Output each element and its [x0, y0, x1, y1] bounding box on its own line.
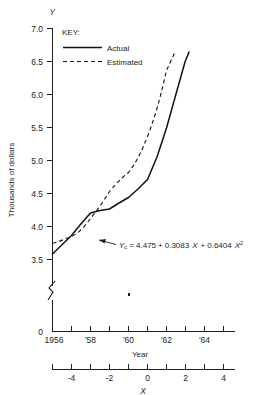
legend-item-actual: Actual: [63, 44, 129, 53]
equation-plus-2: +: [201, 241, 206, 250]
equation-annotation: Yc=4.475+0.3083X+0.6404X2: [99, 239, 243, 250]
y-tick-label-6.0: 6.0: [31, 90, 43, 100]
year-axis: 1956 '58 '60 '62 '64 Year: [45, 326, 235, 360]
y-tick-label-4.5: 4.5: [31, 189, 43, 199]
y-axis-symbol: Y: [49, 7, 56, 17]
year-tick-label-60: '60: [123, 335, 134, 345]
print-speck: [128, 293, 130, 296]
legend-label-estimated: Estimated: [107, 58, 143, 67]
legend-item-estimated: Estimated: [63, 58, 143, 67]
y-tick-label-7.0: 7.0: [31, 24, 43, 34]
y-axis: 7.0 6.5 6.0 5.5 5.0 4.5 4.0 3.5 0 Y Thou…: [7, 7, 56, 337]
y-tick-label-0: 0: [38, 327, 43, 337]
plot-area: [53, 52, 190, 254]
legend-title: KEY:: [62, 28, 80, 37]
year-tick-label-58: '58: [85, 335, 96, 345]
chart-canvas: 7.0 6.5 6.0 5.5 5.0 4.5 4.0 3.5 0 Y Thou…: [0, 0, 263, 395]
year-tick-label-62: '62: [161, 335, 172, 345]
equation-equals: =: [129, 241, 134, 250]
legend-label-actual: Actual: [107, 44, 129, 53]
year-tick-label-64: '64: [199, 335, 210, 345]
equation-y-subscript: c: [124, 244, 127, 250]
coded-tick-label-m2: -2: [106, 373, 114, 383]
coded-tick-label-2: 2: [183, 373, 188, 383]
y-tick-label-5.0: 5.0: [31, 156, 43, 166]
coded-tick-label-0: 0: [145, 373, 150, 383]
equation-x1-symbol: X: [191, 241, 198, 250]
coded-x-axis-symbol: X: [139, 386, 146, 395]
coded-tick-label-m4: -4: [68, 373, 76, 383]
equation-plus-1: +: [158, 241, 163, 250]
series-estimated-line: [53, 52, 176, 244]
y-tick-label-6.5: 6.5: [31, 57, 43, 67]
equation-b1: 0.3083: [165, 241, 190, 250]
equation-text: Yc=4.475+0.3083X+0.6404X2: [119, 240, 243, 250]
coded-x-axis: -4 -2 0 2 4 X: [53, 364, 236, 395]
legend: KEY: Actual Estimated: [62, 28, 143, 67]
equation-x2-exponent: 2: [240, 240, 243, 246]
year-tick-label-1956: 1956: [45, 335, 64, 345]
y-tick-label-3.5: 3.5: [31, 255, 43, 265]
equation-b2: 0.6404: [207, 241, 232, 250]
series-actual-line: [53, 52, 190, 254]
equation-arrow-icon: [99, 239, 106, 244]
axis-break-icon: [48, 281, 55, 300]
equation-intercept: 4.475: [136, 241, 157, 250]
year-axis-caption: Year: [132, 350, 149, 359]
chart-figure: 7.0 6.5 6.0 5.5 5.0 4.5 4.0 3.5 0 Y Thou…: [0, 0, 263, 395]
y-tick-label-5.5: 5.5: [31, 123, 43, 133]
coded-tick-label-4: 4: [221, 373, 226, 383]
y-axis-caption: Thousands of dollars: [7, 143, 16, 217]
y-tick-label-4.0: 4.0: [31, 222, 43, 232]
